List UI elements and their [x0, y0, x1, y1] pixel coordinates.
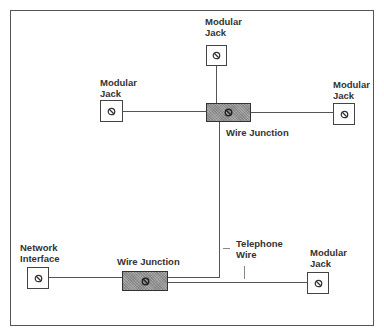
- telephone-wire-label: Telephone Wire: [236, 238, 283, 260]
- prohibited-circle-icon: [314, 279, 323, 288]
- prohibited-circle-icon: [340, 110, 349, 119]
- top-modular-jack: [206, 45, 227, 66]
- upper-junction-label: Wire Junction: [226, 127, 289, 138]
- prohibited-circle-icon: [212, 51, 221, 60]
- wire-down-to-lower-junction: [166, 277, 220, 278]
- lower-junction-label: Wire Junction: [117, 256, 180, 267]
- left-modular-jack: [100, 100, 123, 122]
- lower-wire-junction: [122, 271, 168, 291]
- network-interface-label: Network Interface: [20, 242, 60, 264]
- wire-network-interface-to-lower-junction: [48, 277, 123, 278]
- right-jack-label: Modular Jack: [333, 79, 370, 101]
- wire-top-jack-to-upper-junction: [216, 65, 217, 104]
- lower-jack-label: Modular Jack: [310, 247, 347, 269]
- prohibited-circle-icon: [107, 107, 116, 116]
- wire-upper-junction-down: [219, 121, 220, 278]
- prohibited-circle-icon: [34, 274, 43, 283]
- telephone-wire-leader-vertical: [244, 266, 245, 279]
- lower-modular-jack: [307, 272, 329, 294]
- left-jack-label: Modular Jack: [100, 77, 137, 99]
- right-modular-jack: [333, 103, 355, 125]
- wire-left-jack-to-upper-junction: [122, 111, 207, 112]
- prohibited-circle-icon: [141, 277, 150, 286]
- network-interface-box: [27, 267, 49, 289]
- upper-wire-junction: [206, 103, 251, 122]
- wire-lower-junction-to-lower-jack: [166, 282, 308, 283]
- top-jack-label: Modular Jack: [205, 16, 242, 38]
- wire-upper-junction-to-right-jack: [250, 112, 334, 113]
- prohibited-circle-icon: [224, 108, 233, 117]
- telephone-wire-leader-horizontal: [223, 248, 230, 249]
